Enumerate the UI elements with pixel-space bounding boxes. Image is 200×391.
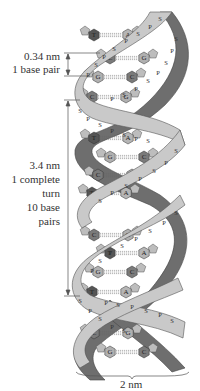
turn-caption-line4: pairs — [39, 215, 60, 228]
sugar-label: S — [144, 307, 148, 314]
sugar-label: S — [94, 61, 98, 68]
sugar-label: S — [174, 35, 178, 42]
measure-turn — [64, 100, 80, 296]
sugar-icon — [148, 244, 158, 253]
sugar-label: S — [152, 167, 156, 174]
sugar-label: S — [136, 30, 140, 37]
base-label: G — [141, 54, 146, 62]
sugar-label: S — [170, 317, 174, 324]
sugar-label: S — [124, 182, 128, 189]
sugar-label: S — [148, 227, 152, 234]
base-label: G — [107, 348, 112, 356]
base-label: C — [142, 153, 147, 161]
base-label: A — [125, 134, 130, 142]
turn-caption-line3: 10 base — [27, 201, 60, 214]
sugar-icon — [136, 263, 146, 272]
phosphate-label: P — [124, 37, 128, 44]
base-label: G — [95, 73, 100, 81]
sugar-label: S — [120, 242, 124, 249]
base-pair-rise-value: 0.34 nm — [24, 50, 60, 63]
sugar-label: S — [164, 59, 168, 66]
sugar-label: S — [174, 209, 178, 216]
phosphate-label: P — [134, 135, 138, 142]
sugar-label: S — [158, 15, 162, 22]
sugar-label: S — [98, 257, 102, 264]
phosphate-label: P — [110, 189, 114, 196]
phosphate-label: P — [104, 299, 108, 306]
base-label: G — [107, 153, 112, 161]
phosphate-label: P — [164, 159, 168, 166]
phosphate-label: P — [138, 175, 142, 182]
dna-double-helix-diagram: TACGGCCGTAGCCGTACGTAGCTACGGC SPSPSPSPSPS… — [0, 0, 200, 391]
phosphate-label: P — [88, 307, 92, 314]
sugar-label: S — [122, 327, 126, 334]
sugar-label: S — [122, 91, 126, 98]
base-label: A — [123, 189, 128, 197]
sugar-icon — [136, 68, 146, 77]
sugar-icon — [78, 184, 88, 193]
sugar-icon — [130, 283, 140, 292]
sugar-label: S — [146, 137, 150, 144]
base-label: G — [95, 268, 100, 276]
sugar-label: S — [98, 197, 102, 204]
phosphate-label: P — [108, 249, 112, 256]
phosphate-label: P — [162, 219, 166, 226]
turn-length-value: 3.4 nm — [29, 159, 60, 172]
phosphate-label: P — [156, 69, 160, 76]
phosphate-label: P — [110, 127, 114, 134]
base-label: A — [123, 288, 128, 296]
base-label: G — [125, 329, 130, 337]
sugar-label: S — [78, 107, 82, 114]
helix-width-value: 2 nm — [120, 378, 142, 391]
base-label: T — [92, 134, 97, 142]
base-label: C — [90, 93, 95, 101]
base-label: C — [92, 231, 97, 239]
phosphate-label: P — [102, 53, 106, 60]
base-label: C — [142, 348, 147, 356]
turn-caption-line1: 1 complete — [11, 173, 60, 186]
turn-caption-line2: turn — [42, 187, 60, 200]
sugar-icon — [80, 129, 90, 138]
sugar-label: S — [116, 301, 120, 308]
sugar-icon — [96, 148, 106, 157]
sugar-label: S — [98, 315, 102, 322]
phosphate-label: P — [90, 267, 94, 274]
phosphate-label: P — [148, 23, 152, 30]
base-label: C — [96, 171, 101, 179]
sugar-label: S — [174, 147, 178, 154]
phosphate-label: P — [158, 311, 162, 318]
base-label: C — [130, 73, 135, 81]
phosphate-label: P — [130, 303, 134, 310]
sugar-label: S — [98, 121, 102, 128]
phosphate-label: P — [134, 85, 138, 92]
sugar-label: S — [78, 297, 82, 304]
phosphate-label: P — [86, 115, 90, 122]
sugar-label: S — [112, 45, 116, 52]
base-label: A — [141, 249, 146, 257]
phosphate-label: P — [170, 47, 174, 54]
phosphate-label: P — [110, 95, 114, 102]
base-label: T — [90, 288, 95, 296]
phosphate-label: P — [110, 323, 114, 330]
sugar-icon — [80, 26, 90, 35]
base-pair-rise-caption: 1 base pair — [12, 63, 60, 76]
base-label: T — [92, 31, 97, 39]
sugar-icon — [148, 49, 158, 58]
base-label: C — [130, 268, 135, 276]
phosphate-label: P — [134, 235, 138, 242]
sugar-label: S — [146, 77, 150, 84]
phosphate-label: P — [86, 71, 90, 78]
sugar-label: S — [122, 131, 126, 138]
